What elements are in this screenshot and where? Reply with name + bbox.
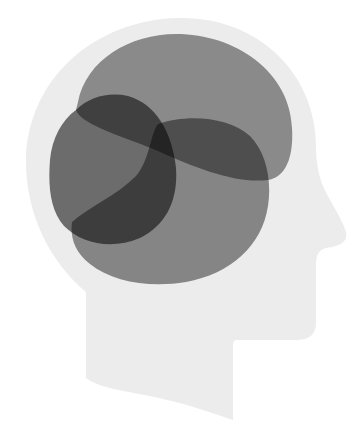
head-svg [0,0,363,444]
head-illustration: Head profile with overlapping brain regi… [0,0,363,444]
